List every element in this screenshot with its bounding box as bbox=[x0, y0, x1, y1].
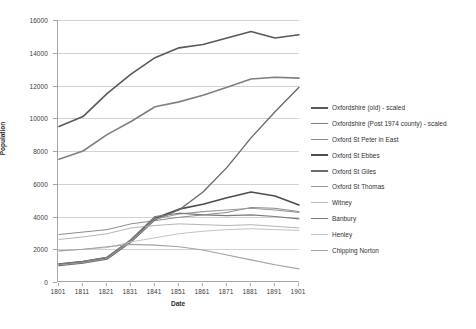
legend-label: Oxfordshire (Post 1974 county) - scaled bbox=[332, 120, 447, 127]
series-line bbox=[59, 207, 299, 234]
y-tick-label: 10000 bbox=[29, 115, 48, 122]
x-tick-label: 1861 bbox=[195, 288, 210, 295]
x-tick-mark bbox=[82, 283, 83, 286]
y-tick-label: 6000 bbox=[33, 180, 48, 187]
legend-item[interactable]: Witney bbox=[311, 195, 473, 211]
x-tick-label: 1811 bbox=[75, 288, 89, 295]
legend-color-swatch bbox=[311, 123, 328, 125]
legend-label: Oxford St Ebbes bbox=[332, 152, 380, 159]
series-lines bbox=[58, 20, 300, 282]
legend: Oxfordshire (old) - scaledOxfordshire (P… bbox=[311, 100, 473, 258]
legend-color-swatch bbox=[311, 218, 328, 219]
legend-color-swatch bbox=[311, 154, 328, 156]
legend-color-swatch bbox=[311, 250, 328, 251]
legend-label: Oxford St Thomas bbox=[332, 183, 385, 190]
legend-color-swatch bbox=[311, 202, 328, 203]
x-tick-label: 1851 bbox=[171, 288, 186, 295]
x-tick-label: 1821 bbox=[99, 288, 114, 295]
y-tick-label: 0 bbox=[44, 279, 48, 286]
legend-color-swatch bbox=[311, 170, 328, 171]
x-tick-mark bbox=[154, 283, 155, 286]
x-tick-label: 1871 bbox=[219, 288, 234, 295]
x-tick-mark bbox=[298, 283, 299, 286]
legend-color-swatch bbox=[311, 107, 328, 109]
legend-label: Oxfordshire (old) - scaled bbox=[332, 104, 405, 111]
legend-item[interactable]: Oxfordshire (Post 1974 county) - scaled bbox=[311, 116, 473, 132]
y-tick-label: 8000 bbox=[33, 148, 48, 155]
x-tick-label: 1881 bbox=[243, 288, 258, 295]
x-tick-mark bbox=[58, 283, 59, 286]
legend-label: Henley bbox=[332, 231, 352, 238]
x-tick-label: 1831 bbox=[123, 288, 138, 295]
y-tick-label: 12000 bbox=[29, 82, 48, 89]
legend-item[interactable]: Oxford St Giles bbox=[311, 163, 473, 179]
x-tick-mark bbox=[250, 283, 251, 286]
legend-label: Witney bbox=[332, 199, 352, 206]
x-tick-label: 1901 bbox=[291, 288, 306, 295]
x-tick-mark bbox=[178, 283, 179, 286]
legend-item[interactable]: Oxford St Ebbes bbox=[311, 147, 473, 163]
series-line bbox=[59, 208, 299, 265]
series-line bbox=[59, 224, 299, 240]
legend-item[interactable]: Oxfordshire (old) - scaled bbox=[311, 100, 473, 116]
legend-label: Chipping Norton bbox=[332, 247, 379, 254]
legend-label: Oxford St Peter in East bbox=[332, 136, 399, 143]
x-tick-mark bbox=[274, 283, 275, 286]
series-line bbox=[59, 213, 299, 264]
y-axis-title: Population bbox=[0, 122, 6, 156]
series-line bbox=[59, 192, 299, 264]
legend-color-swatch bbox=[311, 139, 328, 140]
legend-item[interactable]: Oxford St Thomas bbox=[311, 179, 473, 195]
legend-label: Banbury bbox=[332, 215, 356, 222]
legend-item[interactable]: Chipping Norton bbox=[311, 242, 473, 258]
x-tick-mark bbox=[130, 283, 131, 286]
x-tick-label: 1891 bbox=[267, 288, 282, 295]
x-axis: 1801181118211831184118511861187118811891… bbox=[57, 283, 299, 299]
series-line bbox=[59, 87, 299, 265]
legend-label: Oxford St Giles bbox=[332, 168, 376, 175]
x-tick-mark bbox=[202, 283, 203, 286]
legend-item[interactable]: Oxford St Peter in East bbox=[311, 132, 473, 148]
y-axis: 0200040006000800010000120001400016000 bbox=[0, 0, 57, 290]
x-tick-label: 1841 bbox=[147, 288, 162, 295]
legend-color-swatch bbox=[311, 234, 328, 235]
x-tick-mark bbox=[106, 283, 107, 286]
x-tick-label: 1801 bbox=[51, 288, 66, 295]
y-tick-label: 14000 bbox=[29, 49, 48, 56]
x-tick-mark bbox=[226, 283, 227, 286]
population-line-chart: 0200040006000800010000120001400016000 Po… bbox=[0, 0, 476, 329]
series-line bbox=[59, 31, 299, 126]
legend-item[interactable]: Henley bbox=[311, 226, 473, 242]
legend-item[interactable]: Banbury bbox=[311, 211, 473, 227]
y-tick-label: 2000 bbox=[33, 246, 48, 253]
y-tick-label: 4000 bbox=[33, 213, 48, 220]
y-tick-label: 16000 bbox=[29, 17, 48, 24]
legend-color-swatch bbox=[311, 186, 328, 187]
series-line bbox=[59, 77, 299, 159]
plot-area bbox=[57, 20, 299, 282]
series-line bbox=[59, 244, 299, 269]
x-axis-title: Date bbox=[57, 300, 299, 307]
